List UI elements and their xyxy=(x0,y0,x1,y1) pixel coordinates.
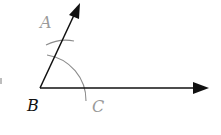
label-b: B xyxy=(27,98,39,114)
ray-bc-arrowhead xyxy=(193,82,209,94)
label-a: A xyxy=(40,15,52,31)
edge-artifact xyxy=(0,78,2,84)
ray-ba-arrowhead xyxy=(69,3,80,19)
label-c: C xyxy=(92,99,104,115)
